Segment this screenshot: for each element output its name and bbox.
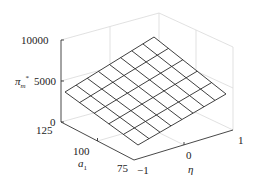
a1-axis-label: a1 — [78, 158, 87, 172]
a1-tick-75: 75 — [117, 163, 128, 174]
surface-mesh — [65, 37, 226, 145]
z-tick-10000: 10000 — [21, 35, 49, 46]
eta-tick-0: 0 — [186, 150, 192, 161]
a1-tick-100: 100 — [73, 146, 90, 157]
a1-tick-125: 125 — [36, 125, 53, 136]
z-tick-5000: 5000 — [34, 76, 56, 87]
eta-tick-neg1: −1 — [137, 165, 149, 176]
a1-axis-subscript: 1 — [84, 164, 88, 172]
eta-tick-1: 1 — [238, 135, 244, 146]
z-axis-subscript: m — [21, 82, 26, 90]
surface-chart — [0, 0, 256, 183]
z-axis-label: πm* — [15, 75, 29, 90]
z-axis-superscript: * — [26, 74, 30, 82]
eta-axis-label: η — [188, 164, 193, 175]
